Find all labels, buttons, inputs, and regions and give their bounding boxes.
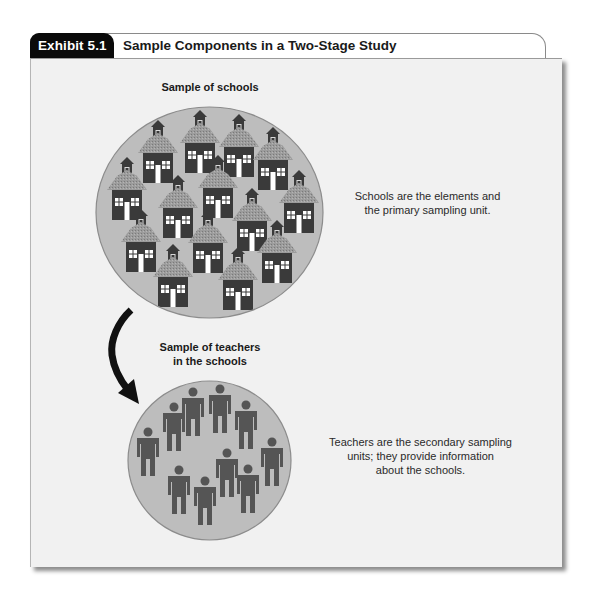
teachers-heading-line: Sample of teachers — [140, 340, 280, 354]
teachers-description-line: about the schools. — [308, 463, 533, 477]
schools-description-line: Schools are the elements and — [330, 189, 525, 203]
teachers-description-line: units; they provide information — [308, 449, 533, 463]
schools-heading: Sample of schools — [140, 80, 280, 94]
teachers-heading: Sample of teachers in the schools — [140, 340, 280, 368]
schools-description-line: the primary sampling unit. — [330, 203, 525, 217]
curved-arrow-down-icon — [112, 310, 139, 404]
teachers-description: Teachers are the secondary sampling unit… — [308, 435, 533, 477]
schools-description: Schools are the elements and the primary… — [330, 189, 525, 217]
teachers-description-line: Teachers are the secondary sampling — [308, 435, 533, 449]
schools-sample-circle — [96, 107, 323, 318]
teachers-heading-line: in the schools — [140, 354, 280, 368]
teachers-sample-circle — [128, 381, 291, 540]
two-stage-sampling-diagram — [0, 0, 602, 604]
